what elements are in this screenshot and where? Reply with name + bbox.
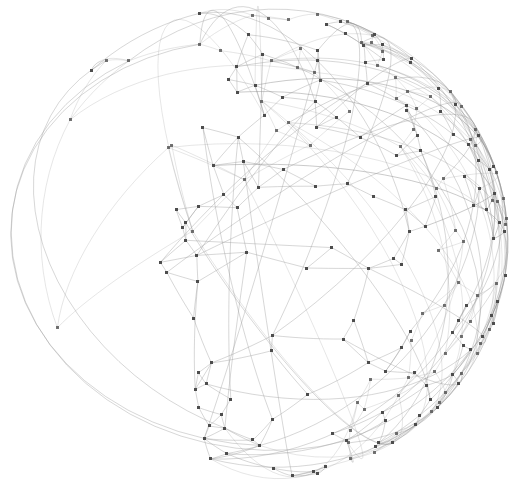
graph-node[interactable] bbox=[245, 251, 248, 254]
graph-node[interactable] bbox=[223, 427, 226, 430]
graph-node[interactable] bbox=[395, 154, 398, 157]
graph-node[interactable] bbox=[159, 261, 162, 264]
graph-node[interactable] bbox=[424, 225, 427, 228]
graph-node[interactable] bbox=[474, 144, 477, 147]
graph-node[interactable] bbox=[184, 221, 187, 224]
graph-node[interactable] bbox=[235, 65, 238, 68]
graph-node[interactable] bbox=[498, 221, 501, 224]
graph-node[interactable] bbox=[261, 53, 264, 56]
graph-node[interactable] bbox=[478, 187, 481, 190]
graph-node[interactable] bbox=[474, 128, 477, 131]
graph-node[interactable] bbox=[291, 474, 294, 477]
graph-node[interactable] bbox=[444, 352, 447, 355]
graph-node[interactable] bbox=[236, 91, 239, 94]
graph-node[interactable] bbox=[345, 439, 348, 442]
graph-node[interactable] bbox=[409, 61, 412, 64]
graph-node[interactable] bbox=[219, 49, 222, 52]
graph-node[interactable] bbox=[346, 182, 349, 185]
graph-node[interactable] bbox=[208, 424, 211, 427]
graph-node[interactable] bbox=[476, 294, 479, 297]
graph-node[interactable] bbox=[362, 44, 365, 47]
graph-node[interactable] bbox=[395, 432, 398, 435]
graph-node[interactable] bbox=[356, 401, 359, 404]
graph-node[interactable] bbox=[205, 382, 208, 385]
graph-node[interactable] bbox=[201, 126, 204, 129]
graph-node[interactable] bbox=[463, 175, 466, 178]
graph-node[interactable] bbox=[433, 370, 436, 373]
graph-node[interactable] bbox=[263, 114, 266, 117]
graph-node[interactable] bbox=[415, 107, 418, 110]
graph-node[interactable] bbox=[400, 263, 403, 266]
graph-node[interactable] bbox=[56, 326, 59, 329]
graph-node[interactable] bbox=[352, 319, 355, 322]
graph-node[interactable] bbox=[449, 90, 452, 93]
graph-node[interactable] bbox=[367, 267, 370, 270]
graph-node[interactable] bbox=[324, 465, 327, 468]
graph-node[interactable] bbox=[457, 281, 460, 284]
graph-node[interactable] bbox=[436, 406, 439, 409]
graph-node[interactable] bbox=[454, 103, 457, 106]
graph-node[interactable] bbox=[367, 361, 370, 364]
graph-node[interactable] bbox=[405, 109, 408, 112]
graph-node[interactable] bbox=[197, 205, 200, 208]
graph-node[interactable] bbox=[296, 66, 299, 69]
graph-node[interactable] bbox=[251, 438, 254, 441]
graph-node[interactable] bbox=[477, 134, 480, 137]
graph-node[interactable] bbox=[69, 118, 72, 121]
graph-node[interactable] bbox=[476, 352, 479, 355]
graph-node[interactable] bbox=[212, 164, 215, 167]
graph-node[interactable] bbox=[349, 457, 352, 460]
graph-node[interactable] bbox=[258, 444, 261, 447]
graph-node[interactable] bbox=[364, 61, 367, 64]
graph-node[interactable] bbox=[469, 138, 472, 141]
graph-node[interactable] bbox=[454, 229, 457, 232]
graph-node[interactable] bbox=[405, 104, 408, 107]
graph-node[interactable] bbox=[175, 208, 178, 211]
graph-node[interactable] bbox=[209, 457, 212, 460]
graph-node[interactable] bbox=[270, 59, 273, 62]
graph-node[interactable] bbox=[203, 437, 206, 440]
graph-node[interactable] bbox=[331, 432, 334, 435]
graph-node[interactable] bbox=[457, 319, 460, 322]
graph-node[interactable] bbox=[395, 97, 398, 100]
graph-node[interactable] bbox=[197, 406, 200, 409]
graph-node[interactable] bbox=[314, 100, 317, 103]
graph-node[interactable] bbox=[462, 240, 465, 243]
graph-node[interactable] bbox=[400, 346, 403, 349]
graph-node[interactable] bbox=[275, 129, 278, 132]
graph-node[interactable] bbox=[210, 361, 213, 364]
graph-node[interactable] bbox=[313, 71, 316, 74]
graph-node[interactable] bbox=[472, 204, 475, 207]
graph-node[interactable] bbox=[467, 143, 470, 146]
graph-node[interactable] bbox=[421, 312, 424, 315]
graph-node[interactable] bbox=[335, 116, 338, 119]
graph-node[interactable] bbox=[220, 413, 223, 416]
graph-node[interactable] bbox=[503, 230, 506, 233]
graph-node[interactable] bbox=[491, 199, 494, 202]
graph-node[interactable] bbox=[451, 331, 454, 334]
graph-node[interactable] bbox=[299, 47, 302, 50]
graph-node[interactable] bbox=[225, 452, 228, 455]
graph-node[interactable] bbox=[434, 195, 437, 198]
graph-node[interactable] bbox=[492, 237, 495, 240]
graph-node[interactable] bbox=[382, 58, 385, 61]
graph-node[interactable] bbox=[372, 195, 375, 198]
graph-node[interactable] bbox=[330, 246, 333, 249]
graph-node[interactable] bbox=[457, 382, 460, 385]
graph-node[interactable] bbox=[414, 423, 417, 426]
graph-node[interactable] bbox=[404, 208, 407, 211]
graph-node[interactable] bbox=[170, 144, 173, 147]
graph-node[interactable] bbox=[312, 470, 315, 473]
graph-node[interactable] bbox=[408, 230, 411, 233]
graph-node[interactable] bbox=[229, 398, 232, 401]
graph-node[interactable] bbox=[316, 472, 319, 475]
graph-node[interactable] bbox=[314, 185, 317, 188]
graph-node[interactable] bbox=[492, 165, 495, 168]
graph-node[interactable] bbox=[460, 372, 463, 375]
graph-node[interactable] bbox=[363, 408, 366, 411]
graph-node[interactable] bbox=[504, 274, 507, 277]
graph-node[interactable] bbox=[287, 18, 290, 21]
graph-node[interactable] bbox=[281, 96, 284, 99]
graph-node[interactable] bbox=[425, 384, 428, 387]
graph-node[interactable] bbox=[305, 267, 308, 270]
